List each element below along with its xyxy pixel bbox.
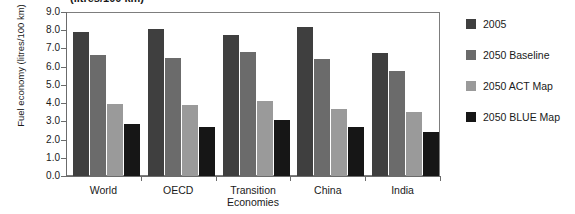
bar (406, 112, 422, 176)
bar (240, 52, 256, 176)
bar-group (297, 12, 364, 176)
y-axis-tick-mark (61, 176, 66, 177)
bar (199, 127, 215, 176)
legend-label: 2050 BLUE Map (483, 111, 560, 123)
y-axis-tick-label: 5.0 (30, 80, 60, 90)
bar-group (223, 12, 290, 176)
legend-item: 2005 (466, 8, 560, 39)
bar (90, 55, 106, 176)
bar-group (372, 12, 439, 176)
x-axis-line (66, 176, 441, 177)
y-axis-tick-mark (61, 121, 66, 122)
x-axis-tick-mark (216, 176, 217, 181)
bar (314, 59, 330, 176)
bar (274, 120, 290, 176)
y-axis-tick-mark (61, 30, 66, 31)
bar (148, 29, 164, 176)
bar (372, 53, 388, 176)
legend-swatch-icon (466, 50, 476, 60)
y-axis-tick-label: 4.0 (30, 98, 60, 108)
x-axis-tick-label: India (365, 184, 440, 196)
bar (257, 101, 273, 176)
bar (182, 105, 198, 176)
y-axis-line (66, 12, 67, 177)
x-axis-tick-mark (290, 176, 291, 181)
chart-title-clipped: (litres/100 km) (70, 0, 240, 5)
x-axis-tick-label: Transition Economies (216, 184, 291, 208)
x-axis-tick-mark (365, 176, 366, 181)
bar (423, 132, 439, 176)
y-axis-tick-label: 7.0 (30, 43, 60, 53)
x-axis-tick-mark (141, 176, 142, 181)
y-axis-tick-label: 0.0 (30, 171, 60, 181)
y-axis-tick-mark (61, 140, 66, 141)
bar (389, 71, 405, 176)
chart-legend: 20052050 Baseline2050 ACT Map2050 BLUE M… (466, 8, 560, 132)
x-axis-tick-label: China (290, 184, 365, 196)
legend-item: 2050 Baseline (466, 39, 560, 70)
legend-item: 2050 ACT Map (466, 70, 560, 101)
chart-figure: (litres/100 km) Fuel economy (litres/100… (0, 0, 575, 214)
y-axis-tick-label: 2.0 (30, 135, 60, 145)
x-axis-tick-label: OECD (141, 184, 216, 196)
y-axis-tick-mark (61, 67, 66, 68)
y-axis-tick-label: 1.0 (30, 153, 60, 163)
legend-label: 2005 (483, 18, 506, 30)
y-axis-tick-mark (61, 103, 66, 104)
y-axis-title: Fuel economy (litres/100 km) (15, 0, 26, 156)
y-axis-tick-label: 6.0 (30, 62, 60, 72)
legend-swatch-icon (466, 19, 476, 29)
bar (331, 109, 347, 176)
y-axis-tick-mark (61, 85, 66, 86)
y-axis-tick-label: 8.0 (30, 25, 60, 35)
legend-swatch-icon (466, 112, 476, 122)
y-axis-tick-mark (61, 48, 66, 49)
chart-title-text: (litres/100 km) (70, 0, 240, 5)
y-axis-tick-mark (61, 158, 66, 159)
bar-group (148, 12, 215, 176)
y-axis-tick-label: 9.0 (30, 7, 60, 17)
legend-label: 2050 Baseline (483, 49, 550, 61)
y-axis-tick-mark (61, 12, 66, 13)
y-axis-tick-label: 3.0 (30, 116, 60, 126)
legend-swatch-icon (466, 81, 476, 91)
bar-group (73, 12, 140, 176)
legend-item: 2050 BLUE Map (466, 101, 560, 132)
legend-label: 2050 ACT Map (483, 80, 553, 92)
x-axis-tick-label: World (66, 184, 141, 196)
bar (107, 104, 123, 176)
bar (223, 35, 239, 176)
bar (348, 127, 364, 176)
bar (124, 124, 140, 176)
x-axis-tick-mark (440, 176, 441, 181)
bar (73, 32, 89, 176)
bar (297, 27, 313, 176)
bar (165, 58, 181, 176)
